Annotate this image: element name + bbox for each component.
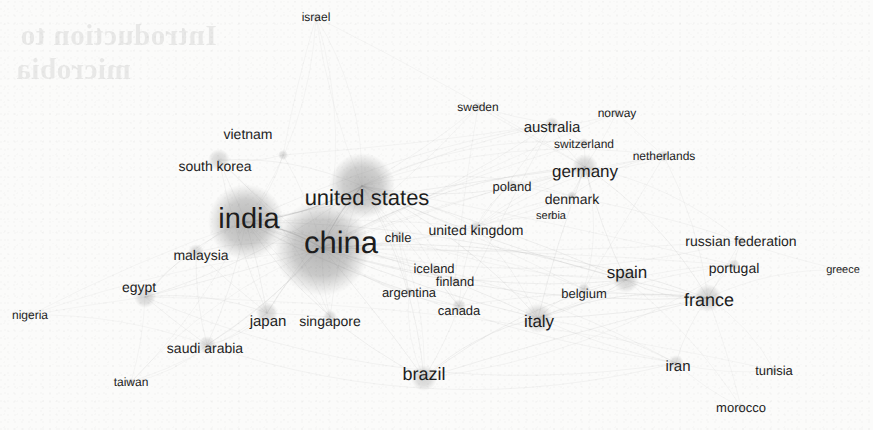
node-label: united states <box>305 187 430 209</box>
node-label: poland <box>492 180 531 193</box>
node-label: morocco <box>716 401 766 414</box>
node-label: israel <box>302 11 331 23</box>
node-label: brazil <box>402 365 445 383</box>
node-label: finland <box>436 275 474 288</box>
node-label: vietnam <box>223 127 272 141</box>
node-label: spain <box>607 264 648 281</box>
node-label: greece <box>826 265 860 276</box>
network-graph-figure: Introduction to microbia chinaindiaunite… <box>0 0 873 430</box>
node-label: france <box>684 291 734 309</box>
node-label: norway <box>598 107 637 119</box>
node-label: portugal <box>709 261 760 275</box>
node-label: malaysia <box>173 248 228 262</box>
node-label: japan <box>250 314 287 329</box>
node-label: netherlands <box>633 150 696 162</box>
node-label: nigeria <box>12 309 48 321</box>
node-label: argentina <box>382 286 436 299</box>
node-label: iran <box>665 359 690 374</box>
node-label: serbia <box>536 211 566 222</box>
node-label: sweden <box>457 101 498 113</box>
node-label: switzerland <box>554 138 614 150</box>
network-node-labels: chinaindiaunited statesfranceitalyspaing… <box>0 0 873 430</box>
node-label: singapore <box>299 314 361 328</box>
node-label: china <box>304 227 378 258</box>
node-label: tunisia <box>755 364 793 377</box>
node-label: united kingdom <box>429 223 524 237</box>
node-label: egypt <box>122 280 156 294</box>
node-label: germany <box>552 163 618 180</box>
node-label: canada <box>438 304 481 317</box>
node-label: taiwan <box>114 376 149 388</box>
node-label: saudi arabia <box>167 341 243 355</box>
node-label: chile <box>385 231 412 244</box>
node-label: denmark <box>545 192 599 206</box>
node-label: russian federation <box>685 234 796 248</box>
node-label: australia <box>524 120 581 135</box>
node-label: south korea <box>178 159 251 173</box>
node-label: belgium <box>561 287 607 300</box>
node-label: italy <box>524 313 554 330</box>
node-label: india <box>218 205 279 234</box>
